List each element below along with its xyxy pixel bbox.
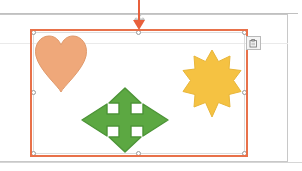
drop-arrow-icon	[133, 20, 145, 30]
bottom-separator-rule	[0, 162, 302, 163]
paste-options-button[interactable]	[246, 36, 261, 50]
shape-group-selection[interactable]	[30, 29, 248, 157]
screen-canvas	[0, 0, 302, 171]
clipboard-paste-icon	[249, 39, 258, 48]
